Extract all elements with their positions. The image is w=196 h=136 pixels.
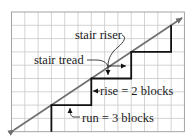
staircase-slope-diagram: stair riser stair tread rise = 2 blocks … [0,0,196,136]
stair-tread-label: stair tread [34,53,84,67]
stair-riser-label: stair riser [75,28,123,42]
run-leader [70,108,80,117]
run-label: run = 3 blocks [82,111,154,125]
rise-label: rise = 2 blocks [100,84,173,98]
